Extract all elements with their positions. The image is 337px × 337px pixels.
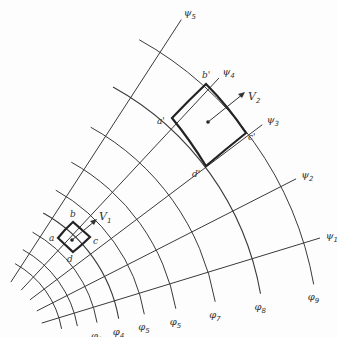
- phi8-label: φ8: [255, 301, 267, 315]
- stream-line-labels: ψ1ψ2ψ3ψ4ψ5: [184, 7, 337, 244]
- phi3-label: φ3: [91, 330, 102, 337]
- velocity-v2-label: V2: [248, 90, 261, 105]
- velocity-v2-arrow: [208, 94, 243, 122]
- flow-net-diagram: a b c d V1 a' b' c' d' V2 ψ1ψ2ψ3ψ4ψ5 φ1φ…: [0, 0, 337, 337]
- corner-a-prime-label: a': [157, 116, 165, 126]
- psi5-label: ψ5: [184, 7, 197, 21]
- psi4-label: ψ4: [222, 66, 234, 80]
- phi4-label: φ4: [113, 326, 124, 337]
- corner-a-label: a: [49, 233, 54, 243]
- phi9-label: φ9: [308, 291, 320, 305]
- stream-line-psi2: [37, 179, 296, 311]
- phi6-label: φ5: [170, 316, 182, 330]
- phi2-label: φ2: [71, 333, 83, 337]
- corner-b-label: b: [70, 209, 76, 219]
- phi7-label: φ7: [209, 309, 221, 323]
- stream-lines: [11, 20, 320, 323]
- flow-net-canvas: a b c d V1 a' b' c' d' V2 ψ1ψ2ψ3ψ4ψ5 φ1φ…: [0, 0, 337, 337]
- stream-line-psi4: [21, 78, 219, 290]
- velocity-v1-label: V1: [99, 210, 111, 225]
- corner-d-label: d: [67, 254, 73, 264]
- corner-d-prime-label: d': [192, 169, 200, 179]
- corner-b-prime-label: b': [202, 70, 210, 80]
- corner-c-prime-label: c': [248, 132, 256, 142]
- stream-line-psi3: [30, 125, 262, 300]
- stream-line-psi1: [42, 238, 320, 323]
- psi3-label: ψ3: [267, 114, 279, 128]
- small-flow-element: a b c d V1: [49, 209, 111, 264]
- psi2-label: ψ2: [301, 169, 314, 183]
- element-abcd-prime-outline: [172, 84, 246, 166]
- psi1-label: ψ1: [326, 230, 337, 244]
- phi5-label: φ5: [138, 321, 150, 335]
- corner-c-label: c: [93, 236, 98, 246]
- large-flow-element: a' b' c' d' V2: [157, 70, 261, 179]
